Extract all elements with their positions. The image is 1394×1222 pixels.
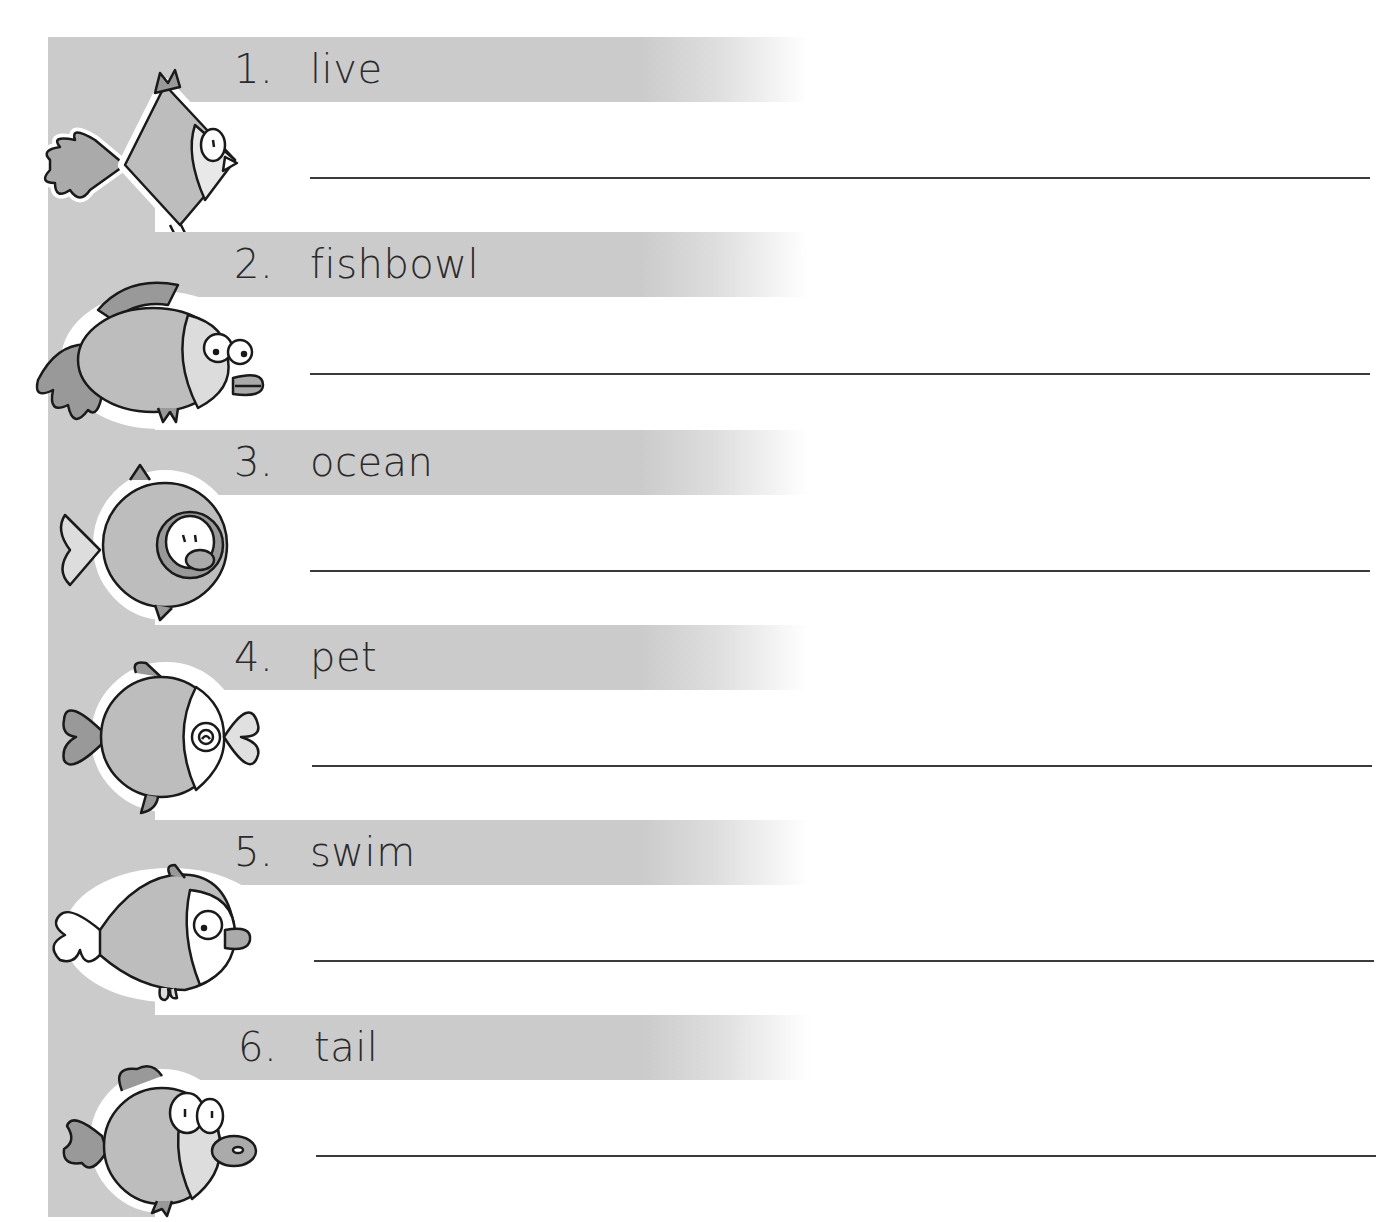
long-fish-icon	[30, 850, 280, 1020]
word-label: 2.fishbowl	[234, 236, 479, 292]
ball-fish-icon	[46, 655, 296, 825]
answer-line[interactable]	[314, 960, 1374, 962]
answer-line[interactable]	[310, 570, 1370, 572]
answer-line[interactable]	[316, 1155, 1376, 1157]
vocabulary-word: fishbowl	[310, 241, 479, 287]
worksheet-item-6: 6.tail	[0, 1015, 1394, 1211]
answer-line[interactable]	[310, 177, 1370, 179]
answer-line[interactable]	[312, 765, 1372, 767]
worksheet-item-4: 4.pet	[0, 625, 1394, 821]
diamond-fish-icon	[30, 65, 280, 235]
goldfish-icon	[18, 270, 268, 440]
vocabulary-word: swim	[310, 829, 416, 875]
worksheet-item-5: 5.swim	[0, 820, 1394, 1016]
vocabulary-word: live	[310, 46, 383, 92]
vocabulary-word: tail	[314, 1024, 378, 1070]
worksheet-item-2: 2.fishbowl	[0, 232, 1394, 428]
bug-eyed-fish-icon	[52, 1051, 302, 1221]
worksheet-item-1: 1.live	[0, 37, 1394, 233]
vocabulary-word: ocean	[310, 439, 433, 485]
round-fish-icon	[40, 460, 290, 630]
answer-line[interactable]	[310, 373, 1370, 375]
worksheet-item-3: 3.ocean	[0, 430, 1394, 626]
vocabulary-word: pet	[310, 634, 377, 680]
